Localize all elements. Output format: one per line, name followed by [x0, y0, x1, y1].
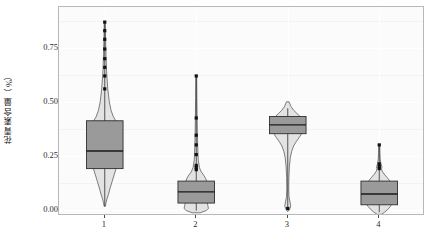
violin-group: [269, 102, 306, 211]
x-tick-mark: [378, 215, 379, 218]
outlier-point: [195, 74, 198, 77]
outlier-point: [103, 38, 106, 41]
violin-group: [361, 143, 398, 214]
plot-panel: [58, 6, 424, 215]
outlier-point: [195, 116, 198, 119]
outlier-point: [286, 207, 289, 210]
y-tick-label: 0.25: [20, 150, 58, 159]
x-tick-mark: [104, 215, 105, 218]
x-tick-label: 1: [84, 220, 124, 229]
violin-plot-chart: 花青素含量（%） 0.000.250.500.75 1234: [0, 0, 429, 247]
outlier-point: [195, 153, 198, 156]
outlier-point: [378, 167, 381, 170]
outlier-point: [378, 143, 381, 146]
x-axis-ticks: 1234: [58, 215, 424, 239]
violin-group: [86, 20, 123, 206]
outlier-point: [195, 143, 198, 146]
y-tick-label: 0.50: [20, 97, 58, 106]
plot-svg: [59, 7, 424, 215]
x-tick-label: 3: [267, 220, 307, 229]
outlier-point: [103, 47, 106, 50]
x-tick-mark: [287, 215, 288, 218]
y-tick-label: 0.00: [20, 204, 58, 213]
outlier-point: [103, 29, 106, 32]
box-rect: [86, 121, 123, 169]
outlier-point: [195, 134, 198, 137]
box-rect: [361, 181, 398, 205]
outlier-point: [103, 20, 106, 23]
violin-group: [178, 74, 215, 212]
y-axis-title-text: 花青素含量（%）: [5, 70, 14, 144]
outlier-point: [195, 164, 198, 167]
outlier-point: [103, 74, 106, 77]
x-tick-label: 4: [358, 220, 398, 229]
outlier-point: [103, 66, 106, 69]
outlier-point: [103, 87, 106, 90]
outlier-point: [103, 57, 106, 60]
x-tick-label: 2: [175, 220, 215, 229]
y-tick-label: 0.75: [20, 43, 58, 52]
x-tick-mark: [195, 215, 196, 218]
y-axis-ticks: 0.000.250.500.75: [16, 0, 58, 215]
